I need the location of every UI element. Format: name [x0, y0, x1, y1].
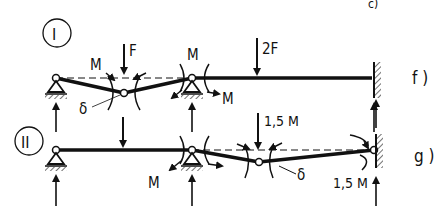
- pin-support-icon: [181, 81, 203, 99]
- case-label-g: g ): [414, 146, 435, 166]
- system-I: I F: [43, 19, 428, 132]
- fixed-support-icon: [374, 62, 381, 98]
- moment-label: M: [187, 46, 199, 64]
- moment-label: M: [148, 174, 160, 192]
- hinge-icon: [121, 90, 128, 97]
- beam-segment: [56, 78, 124, 93]
- system-II: II: [15, 101, 435, 206]
- moment-arrow-icon: [207, 92, 219, 94]
- moment-label: M: [222, 90, 234, 108]
- system-I-id: I: [52, 25, 56, 44]
- hinge-icon: [256, 159, 263, 166]
- pin-support-icon: [181, 153, 203, 171]
- moment-label: M: [90, 56, 102, 74]
- deflection-label: δ: [297, 166, 305, 184]
- moment-label: 1,5 M: [264, 113, 299, 129]
- system-II-id: II: [21, 133, 29, 152]
- moment-arc-icon: [360, 155, 367, 170]
- top-fragment-label: c): [368, 0, 378, 11]
- moment-arrow-icon: [208, 164, 222, 166]
- structural-diagram: c) I: [0, 0, 443, 207]
- moment-arc-icon: [245, 146, 249, 178]
- moment-arrow-icon: [237, 144, 249, 149]
- force-F-label: F: [129, 42, 137, 60]
- beam-segment: [259, 150, 374, 162]
- pin-support-icon: [45, 153, 67, 171]
- fixed-support-icon: [376, 134, 383, 168]
- moment-arrow-icon: [270, 143, 282, 149]
- moment-arrow-icon: [172, 90, 182, 98]
- deflection-label: δ: [79, 100, 87, 118]
- deflection-leader: [92, 95, 120, 107]
- system-I-badge: [43, 19, 71, 47]
- moment-support-label: 1,5 M: [333, 175, 368, 191]
- deflection-leader: [279, 166, 296, 174]
- force-2F-label: 2F: [262, 40, 278, 58]
- moment-arrow-icon: [170, 161, 181, 170]
- case-label-f: f ): [412, 68, 428, 88]
- moment-arc-icon: [108, 76, 113, 110]
- moment-arc-icon: [135, 76, 140, 110]
- pin-support-icon: [45, 81, 67, 99]
